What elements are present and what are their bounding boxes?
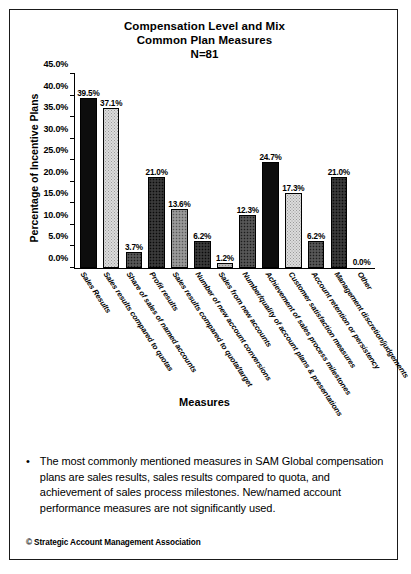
bar-slot: 13.6%	[168, 74, 191, 268]
x-axis-tick-label: Achievement of sales process milestones	[263, 270, 353, 397]
bar[interactable]: 21.0%	[331, 177, 348, 268]
y-axis-tick-label: 35.0%	[43, 102, 68, 112]
y-axis-tick-label: 45.0%	[43, 59, 68, 69]
bar-value-label: 6.2%	[193, 232, 211, 241]
bar-value-label: 0.0%	[353, 258, 371, 267]
bar-value-label: 3.7%	[125, 243, 143, 252]
bar-value-label: 21.0%	[328, 168, 350, 177]
bar-slot: 39.5%	[77, 74, 100, 268]
bar[interactable]: 6.2%	[308, 241, 325, 268]
x-axis-title: Measures	[10, 396, 399, 408]
bar-slot: 3.7%	[123, 74, 146, 268]
y-axis-title: Percentage of Incentive Plans	[28, 78, 40, 258]
bar-slot: 17.3%	[282, 74, 305, 268]
bar[interactable]: 13.6%	[171, 209, 188, 268]
bar-slot: 37.1%	[100, 74, 123, 268]
chart-title-line-1: Compensation Level and Mix	[10, 19, 399, 33]
bar-value-label: 24.7%	[259, 153, 281, 162]
chart-title-line-2: Common Plan Measures	[10, 33, 399, 47]
bullet-marker: •	[26, 454, 30, 516]
bar[interactable]: 37.1%	[103, 108, 120, 268]
plot-area: 0.0%5.0%10.0%15.0%20.0%25.0%30.0%35.0%40…	[74, 74, 375, 269]
bar-slot: 6.2%	[305, 74, 328, 268]
summary-note: • The most commonly mentioned measures i…	[26, 454, 386, 516]
y-axis-tick-label: 40.0%	[43, 81, 68, 91]
bar-slot: 6.2%	[191, 74, 214, 268]
bar-slot: 12.3%	[236, 74, 259, 268]
y-axis-tick-label: 0.0%	[48, 253, 68, 263]
bar-value-label: 1.2%	[216, 254, 234, 263]
bar-slot: 0.0%	[350, 74, 373, 268]
bar[interactable]: 21.0%	[148, 177, 165, 268]
bar[interactable]: 3.7%	[126, 252, 143, 268]
slide-frame: Compensation Level and Mix Common Plan M…	[9, 9, 398, 560]
summary-note-text: The most commonly mentioned measures in …	[40, 454, 386, 516]
y-axis-tick-label: 30.0%	[43, 124, 68, 134]
y-axis-tick-label: 10.0%	[43, 210, 68, 220]
y-axis-tick-label: 15.0%	[43, 188, 68, 198]
copyright-notice: © Strategic Account Management Associati…	[26, 538, 201, 547]
bar-value-label: 39.5%	[77, 89, 99, 98]
bar[interactable]: 39.5%	[80, 98, 97, 268]
bar[interactable]: 24.7%	[262, 162, 279, 268]
bar-series: 39.5%37.1%3.7%21.0%13.6%6.2%1.2%12.3%24.…	[75, 74, 375, 268]
bar-slot: 21.0%	[145, 74, 168, 268]
y-axis-tick-label: 25.0%	[43, 145, 68, 155]
bar-slot: 21.0%	[327, 74, 350, 268]
bar[interactable]: 17.3%	[285, 193, 302, 268]
bar-value-label: 12.3%	[237, 206, 259, 215]
bar-value-label: 13.6%	[168, 200, 190, 209]
bar-slot: 1.2%	[214, 74, 237, 268]
bar[interactable]: 6.2%	[194, 241, 211, 268]
bar[interactable]: 12.3%	[239, 215, 256, 268]
y-axis-tick-label: 5.0%	[48, 231, 68, 241]
bar-slot: 24.7%	[259, 74, 282, 268]
bar-value-label: 6.2%	[307, 232, 325, 241]
bar-value-label: 17.3%	[282, 184, 304, 193]
chart-title-block: Compensation Level and Mix Common Plan M…	[10, 19, 399, 62]
bar-value-label: 21.0%	[146, 168, 168, 177]
bar-value-label: 37.1%	[100, 99, 122, 108]
chart-area: Percentage of Incentive Plans 0.0%5.0%10…	[10, 66, 399, 426]
x-axis-tick-label: Other	[355, 270, 374, 291]
y-axis-tick-label: 20.0%	[43, 167, 68, 177]
bar[interactable]: 1.2%	[217, 263, 234, 268]
